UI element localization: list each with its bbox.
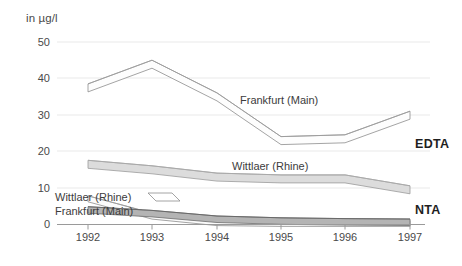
group-label-edta: EDTA	[415, 137, 449, 151]
series-label-edta-wittlaer: Wittlaer (Rhine)	[232, 160, 308, 172]
x-tick-label-1994: 1994	[205, 231, 229, 243]
series-label-nta-frankfurt: Frankfurt (Main)	[55, 205, 133, 217]
series-label-edta-frankfurt: Frankfurt (Main)	[240, 94, 318, 106]
x-tick-label-1993: 1993	[140, 231, 164, 243]
chart-plot	[0, 0, 462, 266]
x-tick-label-1995: 1995	[269, 231, 293, 243]
x-tick-label-1992: 1992	[76, 231, 100, 243]
legend-swatch-nta-wittlaer	[148, 193, 180, 201]
chart-container: in µg/l 50 40 30 20 10 0	[0, 0, 462, 266]
series-label-nta-wittlaer: Wittlaer (Rhine)	[55, 191, 131, 203]
x-tick-label-1997: 1997	[398, 231, 422, 243]
series-nta-frankfurt-main	[88, 207, 410, 226]
x-tick-label-1996: 1996	[333, 231, 357, 243]
group-label-nta: NTA	[415, 203, 441, 217]
